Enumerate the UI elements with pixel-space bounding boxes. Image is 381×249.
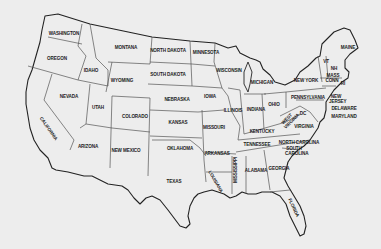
state-label-vt: VT (323, 60, 329, 65)
state-label-ok: OKLAHOMA (167, 147, 193, 152)
us-map: WASHINGTON OREGON IDAHO MONTANA WYOMING … (0, 0, 381, 249)
state-label-pa: PENNSYLVANIA (291, 96, 325, 101)
state-label-tx: TEXAS (167, 180, 182, 185)
state-label-nc: NORTH CAROLINA (279, 141, 319, 146)
state-label-de: DELAWARE (331, 107, 356, 112)
state-label-wy: WYOMING (111, 79, 133, 84)
state-label-dc: DC (300, 112, 306, 117)
state-label-oh: OHIO (268, 103, 279, 108)
state-label-nd: NORTH DAKOTA (150, 49, 186, 54)
state-label-mn: MINNESOTA (193, 51, 219, 56)
state-label-wa: WASHINGTON (49, 32, 80, 37)
state-label-ia: IOWA (204, 95, 216, 100)
state-label-mt: MONTANA (115, 46, 137, 51)
state-label-ri: RI (341, 82, 345, 87)
state-label-or: OREGON (47, 57, 67, 62)
state-label-in: INDIANA (247, 108, 265, 113)
state-label-az: ARIZONA (78, 145, 98, 150)
state-label-mi: MICHIGAN (251, 81, 273, 86)
lake-michigan (244, 62, 252, 92)
state-label-al: ALABAMA (245, 169, 268, 174)
state-label-ut: UTAH (92, 106, 104, 111)
state-label-me: MAINE (341, 46, 355, 51)
state-label-va: VIRGINIA (294, 125, 314, 130)
state-label-co: COLORADO (122, 115, 148, 120)
state-label-ar: ARKANSAS (204, 152, 229, 157)
state-label-wi: WISCONSIN (216, 69, 242, 74)
state-label-ms: MISSISSIPPI (234, 157, 239, 183)
state-label-nm: NEW MEXICO (111, 149, 140, 154)
state-label-md: MARYLAND (331, 115, 356, 120)
state-label-ct: CONN (325, 79, 338, 84)
state-label-ne: NEBRASKA (164, 98, 189, 103)
state-label-nv: NEVADA (60, 95, 78, 100)
state-label-il: ILLINOIS (224, 109, 243, 114)
state-label-id: IDAHO (84, 69, 98, 74)
state-label-ks: KANSAS (169, 121, 188, 126)
us-map-shapes (0, 0, 381, 249)
state-label-ky: KENTUCKY (250, 130, 275, 135)
state-label-ny: NEW YORK (294, 79, 318, 84)
state-label-mo: MISSOURI (203, 126, 225, 131)
state-label-nj: NEW JERSEY (329, 95, 343, 104)
state-label-sc: SOUTH CAROLINA (285, 147, 303, 156)
state-label-sd: SOUTH DAKOTA (150, 73, 185, 78)
state-label-tn: TENNESSEE (244, 143, 271, 148)
state-label-ga: GEORGIA (269, 167, 290, 172)
state-label-nh: NH (331, 67, 337, 72)
